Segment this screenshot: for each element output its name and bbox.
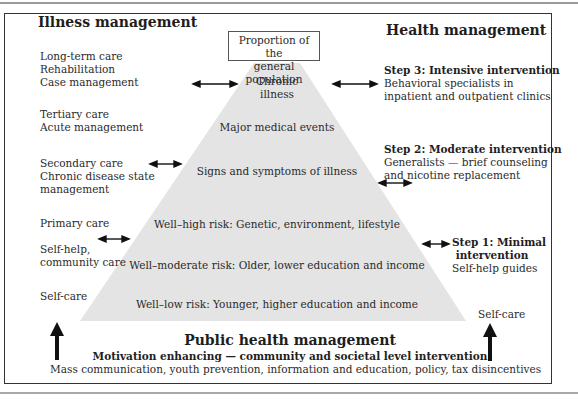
step-2: Step 2: Moderate intervention Generalist…	[384, 143, 562, 182]
illness-level-selfhelp: Self-help, community care	[40, 243, 126, 269]
step-3: Step 3: Intensive intervention Behaviora…	[384, 64, 560, 103]
tier-major-medical: Major medical events	[177, 121, 377, 134]
public-health-title: Public health management	[100, 332, 480, 348]
proportion-label-box: Proportion of the general population	[228, 31, 320, 61]
tier-well-moderate-risk: Well–moderate risk: Older, lower educati…	[117, 259, 437, 272]
health-self-care: Self-care	[478, 308, 525, 321]
illness-level-secondary: Secondary care Chronic disease state man…	[40, 157, 155, 196]
public-health-details: Mass communication, youth prevention, in…	[50, 363, 530, 376]
illness-management-title: Illness management	[38, 14, 197, 30]
illness-level-primary: Primary care	[40, 217, 109, 230]
tier-well-low-risk: Well–low risk: Younger, higher education…	[117, 298, 437, 311]
tier-signs-symptoms: Signs and symptoms of illness	[177, 165, 377, 178]
health-management-title: Health management	[386, 22, 546, 38]
illness-level-selfcare: Self-care	[40, 290, 87, 303]
public-health-subtitle: Motivation enhancing — community and soc…	[60, 350, 520, 363]
illness-level-longterm: Long-term care Rehabilitation Case manag…	[40, 50, 139, 89]
tier-chronic-illness: Chronic illness	[247, 75, 307, 101]
tier-well-high-risk: Well–high risk: Genetic, environment, li…	[127, 218, 427, 231]
illness-level-tertiary: Tertiary care Acute management	[40, 108, 143, 134]
step-1: Step 1: Minimal intervention Self-help g…	[452, 236, 532, 275]
